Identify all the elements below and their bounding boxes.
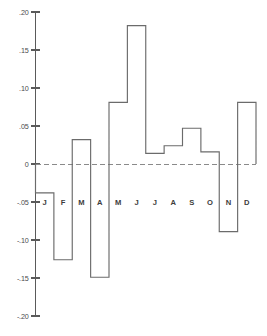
- y-axis-tick-label: .20: [19, 8, 29, 17]
- month-label-april: A: [97, 198, 103, 207]
- data-series-step-outline: [36, 26, 257, 278]
- y-axis-tick-label: 0: [25, 160, 29, 169]
- month-label-june: J: [134, 198, 138, 207]
- y-axis-tick-labels: .20.15.10.050-.05-.10-.15-.20: [17, 8, 29, 321]
- month-label-march: M: [78, 198, 84, 207]
- y-axis-tick-label: -.15: [17, 274, 29, 283]
- y-axis-tick-label: .10: [19, 84, 29, 93]
- y-axis-tick-label: .05: [19, 122, 29, 131]
- chart-container: .20.15.10.050-.05-.10-.15-.20 JFMAMJJASO…: [0, 0, 267, 336]
- month-label-december: D: [244, 198, 250, 207]
- month-label-september: S: [189, 198, 194, 207]
- y-axis-tick-label: -.05: [17, 198, 29, 207]
- y-axis-tick-label: -.10: [17, 236, 29, 245]
- month-label-february: F: [61, 198, 66, 207]
- month-label-august: A: [171, 198, 177, 207]
- y-axis-tick-label: -.20: [17, 312, 29, 321]
- month-label-july: J: [153, 198, 157, 207]
- y-axis-tick-label: .15: [19, 46, 29, 55]
- month-label-november: N: [226, 198, 231, 207]
- month-label-may: M: [115, 198, 121, 207]
- seasonal-index-step-chart: .20.15.10.050-.05-.10-.15-.20 JFMAMJJASO…: [0, 0, 267, 336]
- month-label-january: J: [43, 198, 47, 207]
- month-label-october: O: [207, 198, 213, 207]
